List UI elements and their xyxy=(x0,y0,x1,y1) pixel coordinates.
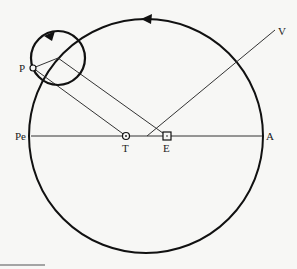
earth-T-dot xyxy=(125,135,127,137)
planet-P-marker xyxy=(30,65,36,71)
label-Pe: Pe xyxy=(15,130,26,142)
label-E: E xyxy=(163,142,170,154)
label-P: P xyxy=(19,62,25,74)
deferent-direction-arrow-icon xyxy=(141,14,152,24)
label-A: A xyxy=(266,130,274,142)
epicycle-diagram: P Pe T E A V xyxy=(0,0,297,269)
line-epicycle-center-to-E xyxy=(58,58,167,136)
line-P-to-T xyxy=(33,68,126,136)
label-T: T xyxy=(122,142,129,154)
line-to-V xyxy=(147,30,275,136)
equant-E-dot xyxy=(166,135,168,137)
label-V: V xyxy=(278,25,286,37)
